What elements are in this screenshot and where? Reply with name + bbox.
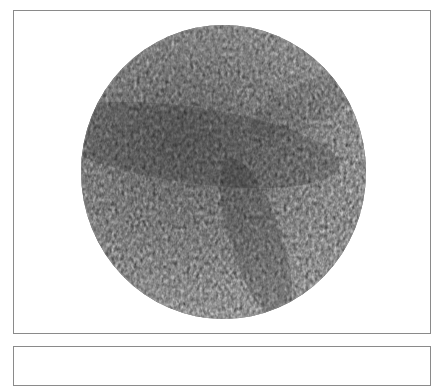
circular-micrograph-image bbox=[81, 25, 366, 319]
micrograph-texture bbox=[81, 25, 366, 319]
figure-panel-bottom bbox=[13, 346, 431, 386]
